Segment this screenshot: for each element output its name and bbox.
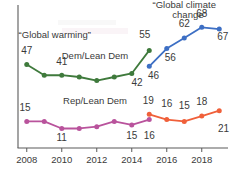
line-chart: 2008201020122014201620184741425546566268… — [0, 0, 233, 174]
value-label-rep-warming: 16 — [144, 130, 156, 141]
bleed-line-1 — [58, 20, 116, 25]
value-label-rep-climate: 15 — [179, 100, 191, 111]
data-point[interactable] — [199, 25, 204, 30]
data-point[interactable] — [77, 75, 82, 80]
data-point[interactable] — [147, 117, 152, 122]
annotation-global-climate-change: “Global climate — [153, 0, 216, 10]
value-label-dem-warming: 47 — [21, 45, 33, 56]
x-axis-ticks: 200820102012201420162018 — [16, 148, 212, 165]
data-point[interactable] — [199, 114, 204, 119]
data-point[interactable] — [129, 122, 134, 127]
value-label-rep-warming: 15 — [126, 130, 138, 141]
value-label-dem-climate: 67 — [217, 31, 229, 42]
data-point[interactable] — [112, 119, 117, 124]
data-point[interactable] — [112, 75, 117, 80]
annotation-global-warming: “Global warming” — [19, 29, 91, 40]
data-point[interactable] — [147, 112, 152, 117]
value-label-rep-climate: 18 — [196, 96, 208, 107]
x-tick-label: 2010 — [51, 154, 72, 165]
series-rep-warming — [24, 117, 152, 131]
data-point[interactable] — [94, 78, 99, 83]
x-tick-label: 2012 — [86, 154, 107, 165]
data-point[interactable] — [59, 126, 64, 131]
series-dem-climate — [147, 25, 222, 69]
data-point[interactable] — [59, 73, 64, 78]
data-point[interactable] — [147, 64, 152, 69]
series-name-label-dem: Dem/Lean Dem — [62, 50, 129, 61]
x-tick-label: 2014 — [121, 154, 142, 165]
value-label-rep-warming: 15 — [19, 102, 31, 113]
x-tick-label: 2008 — [16, 154, 37, 165]
value-label-dem-climate: 56 — [165, 52, 177, 63]
data-point[interactable] — [182, 119, 187, 124]
series-name-label-rep: Rep/Lean Dem — [63, 95, 127, 106]
x-tick-label: 2018 — [191, 154, 212, 165]
data-point[interactable] — [164, 117, 169, 122]
data-point[interactable] — [129, 71, 134, 76]
value-label-rep-climate: 21 — [218, 123, 230, 134]
data-point[interactable] — [94, 124, 99, 129]
inline-series-labels: Dem/Lean DemRep/Lean Dem — [62, 50, 129, 105]
data-point[interactable] — [24, 119, 29, 124]
data-point[interactable] — [24, 62, 29, 67]
value-label-dem-climate: 46 — [148, 70, 160, 81]
data-point[interactable] — [164, 46, 169, 51]
data-point[interactable] — [42, 119, 47, 124]
annotation-global-climate-change: change” — [172, 9, 206, 20]
value-label-rep-warming: 11 — [57, 132, 68, 143]
value-label-dem-warming: 55 — [139, 29, 151, 40]
value-label-rep-climate: 19 — [143, 95, 155, 106]
value-label-rep-climate: 16 — [161, 98, 173, 109]
chart-canvas: 2008201020122014201620184741425546566268… — [0, 0, 233, 174]
series-line — [149, 27, 219, 66]
data-point[interactable] — [182, 35, 187, 40]
data-point[interactable] — [217, 108, 222, 113]
data-point[interactable] — [147, 48, 152, 53]
x-tick-label: 2016 — [156, 154, 177, 165]
data-point[interactable] — [42, 73, 47, 78]
data-point[interactable] — [77, 126, 82, 131]
value-label-dem-warming: 42 — [131, 77, 143, 88]
